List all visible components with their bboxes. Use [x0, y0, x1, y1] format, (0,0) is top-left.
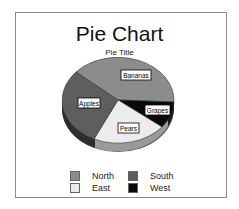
legend-label: East — [92, 183, 110, 193]
chart-subtitle: Pie Title — [0, 48, 239, 57]
legend-item-west[interactable]: West — [128, 182, 170, 193]
label-pears: Pears — [118, 123, 139, 133]
legend-item-north[interactable]: North — [70, 170, 114, 181]
legend: North South East West — [70, 170, 210, 194]
legend-swatch-west — [128, 183, 138, 193]
svg-text:Pears: Pears — [120, 125, 138, 132]
legend-item-east[interactable]: East — [70, 182, 110, 193]
legend-swatch-south — [128, 171, 138, 181]
legend-label: South — [150, 171, 174, 181]
svg-text:Grapes: Grapes — [147, 107, 169, 115]
legend-swatch-east — [70, 183, 80, 193]
svg-text:Apples: Apples — [79, 100, 100, 108]
legend-swatch-north — [70, 171, 80, 181]
label-grapes: Grapes — [145, 105, 170, 115]
chart-title: Pie Chart — [0, 22, 239, 46]
svg-text:Bananas: Bananas — [123, 72, 149, 79]
legend-label: North — [92, 171, 114, 181]
legend-item-south[interactable]: South — [128, 170, 174, 181]
label-bananas: Bananas — [121, 70, 151, 80]
label-apples: Apples — [78, 98, 100, 108]
legend-label: West — [150, 183, 170, 193]
